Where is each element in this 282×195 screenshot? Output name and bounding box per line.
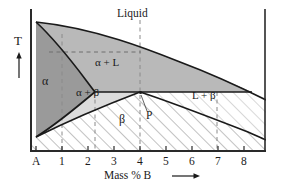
region-label-alpha-plus-beta: α + β <box>76 87 99 98</box>
x-tick-label-5: 5 <box>163 156 169 168</box>
x-axis-label: Mass % B <box>104 170 151 182</box>
region-label-liquid: Liquid <box>117 8 148 20</box>
phase-diagram-figure: Liquid T α α + L α + β β L + β P A 1 2 3… <box>0 0 282 195</box>
x-tick-label-4: 4 <box>137 156 143 168</box>
x-tick-label-1: 1 <box>59 156 65 168</box>
point-label-peritectic: P <box>146 110 152 122</box>
t-axis-arrow-icon <box>16 52 21 78</box>
peritectic-point-marker <box>139 91 142 94</box>
x-tick-label-8: 8 <box>241 156 247 168</box>
x-tick-label-7: 7 <box>215 156 221 168</box>
region-label-alpha-plus-liquid: α + L <box>95 57 119 68</box>
x-tick-label-6: 6 <box>189 156 195 168</box>
y-axis-label: T <box>14 34 22 47</box>
x-axis-arrow-icon <box>172 173 200 178</box>
x-tick-label-A: A <box>32 156 40 168</box>
x-tick-label-2: 2 <box>85 156 91 168</box>
region-label-beta: β <box>119 113 125 125</box>
x-tick-label-3: 3 <box>111 156 117 168</box>
region-label-liquid-plus-beta: L + β <box>192 90 216 101</box>
region-label-alpha: α <box>42 75 48 87</box>
